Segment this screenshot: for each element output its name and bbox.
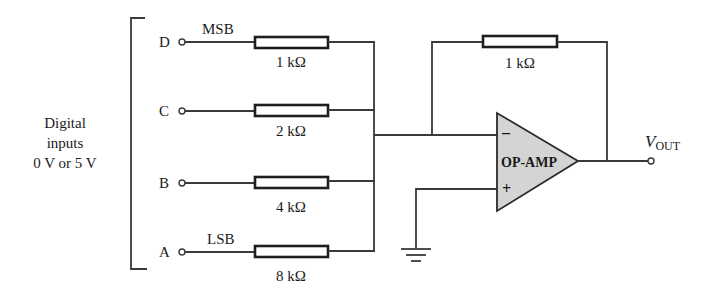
vout-subscript: OUT — [655, 139, 680, 153]
input-terminal-c — [179, 108, 185, 114]
input-group-bracket — [131, 18, 147, 269]
input-label-b: B — [159, 175, 169, 191]
input-label-d: D — [159, 34, 170, 50]
inverting-input-sign: – — [501, 124, 511, 141]
input-terminal-b — [179, 180, 185, 186]
wire-to-ground — [416, 189, 497, 249]
feedback-wire-left — [432, 42, 483, 135]
inputs-caption-line-3: 0 V or 5 V — [33, 155, 97, 171]
resistor-b-value: 4 kΩ — [276, 199, 306, 215]
input-label-c: C — [159, 103, 169, 119]
resistor-d — [255, 37, 328, 48]
opamp: – OP-AMP + — [497, 113, 578, 211]
input-terminal-d — [179, 39, 185, 45]
resistor-b — [255, 177, 328, 188]
feedback-wire-right — [557, 42, 607, 161]
resistor-c — [255, 105, 328, 116]
resistor-a — [255, 246, 328, 257]
input-terminal-a — [179, 249, 185, 255]
vout-label: VOUT — [645, 132, 681, 153]
inputs-caption-line-1: Digital — [44, 115, 86, 131]
input-label-a: A — [159, 244, 170, 260]
input-row-d: D MSB 1 kΩ — [159, 21, 375, 70]
output-terminal — [648, 158, 654, 164]
input-row-c: C 2 kΩ — [159, 103, 375, 139]
input-row-a: A LSB 8 kΩ — [159, 231, 375, 284]
resistor-a-value: 8 kΩ — [276, 268, 306, 284]
inputs-caption-line-2: inputs — [47, 135, 84, 151]
resistor-d-value: 1 kΩ — [276, 54, 306, 70]
lsb-label: LSB — [207, 231, 235, 247]
noninverting-input-sign: + — [502, 180, 511, 197]
opamp-label: OP-AMP — [501, 155, 557, 170]
ground-icon — [401, 249, 431, 261]
resistor-c-value: 2 kΩ — [276, 123, 306, 139]
feedback-resistor-value: 1 kΩ — [505, 55, 535, 71]
feedback-resistor — [483, 36, 557, 47]
dac-circuit-diagram: Digital inputs 0 V or 5 V D MSB 1 kΩ C 2… — [0, 0, 711, 301]
msb-label: MSB — [202, 21, 234, 37]
input-row-b: B 4 kΩ — [159, 175, 375, 215]
